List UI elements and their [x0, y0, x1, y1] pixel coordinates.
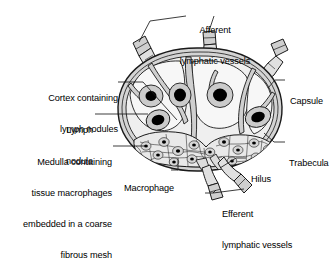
- macrophage: [159, 138, 169, 147]
- label-trabecula-line1: Trabecula: [289, 158, 336, 168]
- label-afferent-lymphatic-vessels: Afferent lymphatic vessels: [165, 4, 265, 87]
- macrophage: [249, 139, 259, 147]
- label-trabecula: Trabecula: [289, 137, 336, 189]
- macrophage: [219, 138, 229, 147]
- label-efferent-line1: Efferent: [222, 209, 326, 219]
- label-medulla-line4: fibrous mesh: [2, 250, 112, 260]
- label-efferent-lymphatic-vessels: Efferent lymphatic vessels: [222, 188, 326, 262]
- macrophage: [187, 155, 197, 163]
- label-medulla-line3: embedded in a coarse: [2, 219, 112, 229]
- label-efferent-line2: lymphatic vessels: [222, 240, 326, 250]
- label-cortex-line1: Cortex containing: [10, 93, 118, 103]
- macrophage: [233, 146, 243, 154]
- label-capsule: Capsule: [290, 75, 336, 127]
- macrophage: [205, 148, 215, 156]
- label-medulla-line1: Medulla containing: [2, 157, 112, 167]
- lymph-nodule: [139, 85, 163, 107]
- label-afferent-line1: Afferent: [165, 25, 265, 35]
- macrophage: [153, 151, 163, 159]
- macrophage: [189, 141, 199, 149]
- label-capsule-line1: Capsule: [290, 96, 336, 106]
- label-lymph-nodule-line1: Lymph: [35, 125, 93, 135]
- label-hilus-line1: Hilus: [251, 174, 285, 184]
- label-medulla-containing-tissue-macrophages: Medulla containing tissue macrophages em…: [2, 136, 112, 262]
- label-macrophage-line1: Macrophage: [124, 183, 184, 193]
- label-macrophage: Macrophage: [124, 162, 184, 214]
- macrophage: [173, 147, 184, 156]
- label-medulla-line2: tissue macrophages: [2, 188, 112, 198]
- label-afferent-line2: lymphatic vessels: [165, 56, 265, 66]
